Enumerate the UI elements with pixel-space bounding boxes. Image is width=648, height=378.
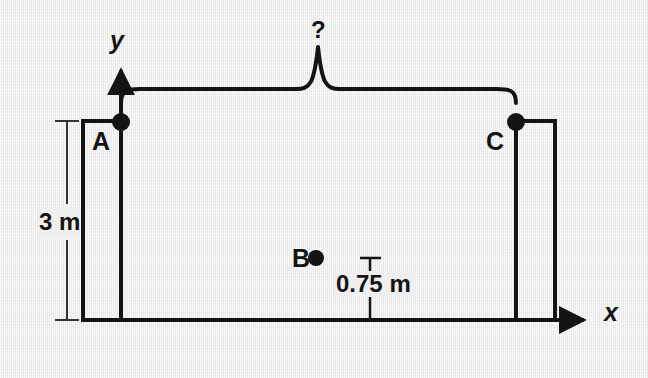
span-brace-label: ? bbox=[311, 18, 326, 42]
point-marker-b bbox=[308, 250, 324, 266]
height-dimension-label: 3 m bbox=[38, 208, 81, 236]
x-axis-label: x bbox=[604, 300, 618, 325]
drop-dimension-label: 0.75 m bbox=[334, 271, 413, 297]
point-label-b: B bbox=[292, 246, 310, 271]
diagram-canvas bbox=[0, 0, 648, 378]
right-block bbox=[516, 121, 555, 320]
span-brace bbox=[121, 47, 516, 103]
point-label-c: C bbox=[486, 129, 504, 154]
point-marker-a bbox=[112, 113, 130, 131]
y-axis-label: y bbox=[110, 28, 124, 53]
point-label-a: A bbox=[92, 129, 110, 154]
physics-diagram-figure: y x A B C 3 m 0.75 m ? bbox=[0, 0, 648, 378]
point-marker-c bbox=[507, 113, 525, 131]
